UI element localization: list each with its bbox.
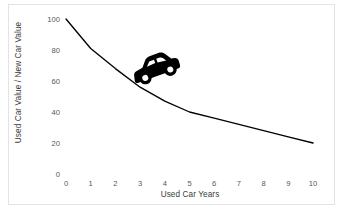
plot-line-layer [0, 0, 349, 218]
x-axis-label: Used Car Years [66, 190, 314, 199]
depreciation-line-chart: Used Car Value / New Car Value 020406080… [0, 0, 349, 218]
car-icon [127, 48, 185, 92]
value-retention-line [66, 19, 313, 143]
